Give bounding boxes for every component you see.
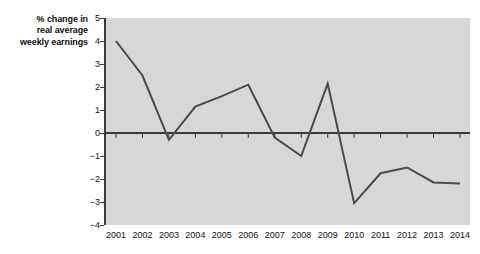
earnings-line-chart: % change in real average weekly earnings… (0, 0, 480, 254)
data-line-svg (106, 18, 470, 225)
y-axis-tick-label: 1 (78, 106, 100, 115)
y-axis-tick-label: −3 (78, 198, 100, 207)
y-axis-tick-label: −1 (78, 152, 100, 161)
y-axis-tick-mark (100, 87, 104, 88)
plot-area (106, 18, 470, 225)
y-axis-tick-label: 0 (78, 129, 100, 138)
y-axis-tick-mark (100, 133, 104, 134)
y-axis-title-line-2: real average (4, 25, 88, 36)
y-axis-tick-mark (100, 225, 104, 226)
y-axis-title-line-3: weekly earnings (4, 37, 88, 48)
y-axis-tick-label: −2 (78, 175, 100, 184)
data-series-line (116, 41, 460, 203)
y-axis-tick-label: 3 (78, 60, 100, 69)
y-axis-tick-mark (100, 179, 104, 180)
x-axis-tick-label: 2014 (445, 231, 475, 240)
y-axis-tick-label: 5 (78, 14, 100, 23)
y-axis-tick-mark (100, 64, 104, 65)
y-axis-tick-mark (100, 41, 104, 42)
cropped-caption (180, 247, 476, 254)
y-axis-title: % change in real average weekly earnings (4, 14, 88, 48)
y-axis-tick-mark (100, 156, 104, 157)
y-axis-tick-mark (100, 202, 104, 203)
y-axis-tick-label: 2 (78, 83, 100, 92)
y-axis-tick-label: −4 (78, 221, 100, 230)
y-axis-tick-mark (100, 18, 104, 19)
y-axis-tick-label: 4 (78, 37, 100, 46)
y-axis-line (104, 18, 106, 225)
y-axis-title-line-1: % change in (4, 14, 88, 25)
y-axis-tick-mark (100, 110, 104, 111)
